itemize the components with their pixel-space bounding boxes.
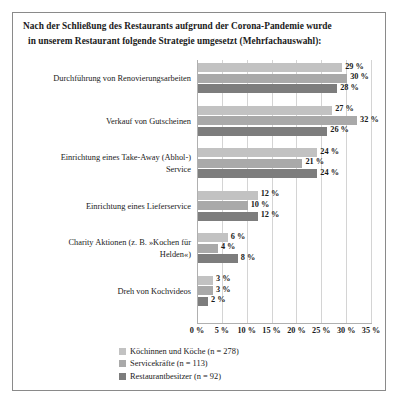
bar <box>198 148 317 157</box>
bar-row: 30 % <box>198 74 387 83</box>
x-tick-label: 35 % <box>362 326 380 335</box>
category-label: Verkauf von Gutscheinen <box>23 116 191 128</box>
bar <box>198 297 208 306</box>
legend-swatch <box>119 360 126 367</box>
bar <box>198 201 248 210</box>
bar <box>198 244 218 253</box>
bars-container: 29 %30 %28 % <box>198 63 387 95</box>
bar-value-label: 12 % <box>258 210 280 219</box>
bar-value-label: 27 % <box>332 104 354 113</box>
bar <box>198 254 238 263</box>
bars-container: 24 %21 %24 % <box>198 148 387 180</box>
bar-value-label: 12 % <box>258 189 280 198</box>
bar-row: 4 % <box>198 244 387 253</box>
bars-container: 3 %3 %2 % <box>198 276 387 308</box>
bar-row: 32 % <box>198 116 387 125</box>
plot-area: Durchführung von Renovierungsarbeiten29 … <box>13 60 387 330</box>
legend-swatch <box>119 373 126 380</box>
bars-container: 12 %10 %12 % <box>198 191 387 223</box>
bars-container: 6 %4 %8 % <box>198 233 387 265</box>
bar-row: 12 % <box>198 191 387 200</box>
bar-group: Charity Aktionen (z. B. »Kochen fürHelde… <box>13 233 387 265</box>
category-label-line: Helden«) <box>23 249 191 261</box>
bar <box>198 159 302 168</box>
bar-value-label: 29 % <box>342 62 364 71</box>
x-axis-line <box>197 323 372 324</box>
bar-group: Einrichtung eines Lieferservice12 %10 %1… <box>13 191 387 223</box>
bar-row: 26 % <box>198 127 387 136</box>
bar-value-label: 10 % <box>248 200 270 209</box>
bar-row: 24 % <box>198 169 387 178</box>
x-tick-label: 25 % <box>312 326 330 335</box>
category-label-line: Service <box>23 164 191 176</box>
bar <box>198 74 347 83</box>
category-label-line: Durchführung von Renovierungsarbeiten <box>23 73 191 85</box>
chart-legend: Köchinnen und Köche (n = 278)Servicekräf… <box>119 345 369 383</box>
x-tick-label: 0 % <box>190 326 204 335</box>
bar <box>198 169 317 178</box>
bar-value-label: 21 % <box>302 157 324 166</box>
legend-item[interactable]: Servicekräfte (n = 113) <box>119 358 369 371</box>
chart-title-line-2: in unserem Restaurant folgende Strategie… <box>23 34 379 49</box>
bar-value-label: 2 % <box>208 295 226 304</box>
bar-group: Verkauf von Gutscheinen27 %32 %26 % <box>13 106 387 138</box>
category-label: Charity Aktionen (z. B. »Kochen fürHelde… <box>23 237 191 260</box>
bar-row: 28 % <box>198 84 387 93</box>
bar-row: 21 % <box>198 159 387 168</box>
category-label: Einrichtung eines Lieferservice <box>23 201 191 213</box>
bar-value-label: 3 % <box>213 274 231 283</box>
category-label-line: Charity Aktionen (z. B. »Kochen für <box>23 237 191 249</box>
legend-label: Restaurantbesitzer (n = 92) <box>130 372 221 381</box>
bar <box>198 84 337 93</box>
chart-figure: Nach der Schließung des Restaurants aufg… <box>12 12 386 391</box>
category-label: Dreh von Kochvideos <box>23 286 191 298</box>
bar-value-label: 6 % <box>228 232 246 241</box>
bar <box>198 106 332 115</box>
bar <box>198 286 213 295</box>
bar-value-label: 3 % <box>213 285 231 294</box>
bars-container: 27 %32 %26 % <box>198 106 387 138</box>
category-label-line: Dreh von Kochvideos <box>23 286 191 298</box>
bar <box>198 212 258 221</box>
bar-group: Dreh von Kochvideos3 %3 %2 % <box>13 276 387 308</box>
bar <box>198 63 342 72</box>
bar-value-label: 30 % <box>347 72 369 81</box>
bar-row: 12 % <box>198 212 387 221</box>
legend-item[interactable]: Köchinnen und Köche (n = 278) <box>119 345 369 358</box>
bar <box>198 276 213 285</box>
x-tick-label: 20 % <box>287 326 305 335</box>
category-label: Durchführung von Renovierungsarbeiten <box>23 73 191 85</box>
chart-title: Nach der Schließung des Restaurants aufg… <box>23 19 379 48</box>
bar-group: Einrichtung eines Take-Away (Abhol-)Serv… <box>13 148 387 180</box>
chart-title-line-1: Nach der Schließung des Restaurants aufg… <box>23 19 379 34</box>
bar-group: Durchführung von Renovierungsarbeiten29 … <box>13 63 387 95</box>
bar-value-label: 32 % <box>357 115 379 124</box>
bar-row: 6 % <box>198 233 387 242</box>
x-axis-tick-labels: 0 %5 %10 %15 %20 %25 %30 %35 % <box>197 326 371 342</box>
bar-row: 2 % <box>198 297 387 306</box>
bar-value-label: 4 % <box>218 242 236 251</box>
bar-value-label: 26 % <box>327 125 349 134</box>
bar-row: 3 % <box>198 286 387 295</box>
category-label-line: Einrichtung eines Lieferservice <box>23 201 191 213</box>
legend-label: Servicekräfte (n = 113) <box>130 359 208 368</box>
x-tick-label: 15 % <box>262 326 280 335</box>
bar-row: 27 % <box>198 106 387 115</box>
bar-value-label: 24 % <box>317 147 339 156</box>
bar <box>198 116 357 125</box>
legend-label: Köchinnen und Köche (n = 278) <box>130 347 239 356</box>
bar-row: 29 % <box>198 63 387 72</box>
bar <box>198 233 228 242</box>
bar-row: 24 % <box>198 148 387 157</box>
bar-value-label: 24 % <box>317 168 339 177</box>
bar-value-label: 28 % <box>337 83 359 92</box>
x-tick-label: 10 % <box>237 326 255 335</box>
bar <box>198 191 258 200</box>
category-label-line: Verkauf von Gutscheinen <box>23 116 191 128</box>
bar-row: 8 % <box>198 254 387 263</box>
category-label-line: Einrichtung eines Take-Away (Abhol-) <box>23 152 191 164</box>
bar-value-label: 8 % <box>238 253 256 262</box>
bar <box>198 127 327 136</box>
legend-item[interactable]: Restaurantbesitzer (n = 92) <box>119 370 369 383</box>
bar-row: 10 % <box>198 201 387 210</box>
